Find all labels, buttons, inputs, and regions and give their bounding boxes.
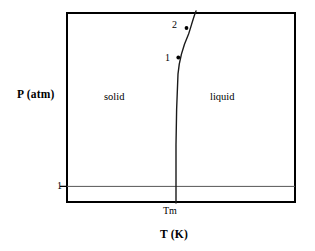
region-label-solid: solid [104, 92, 124, 103]
x-axis-title: T (K) [160, 229, 188, 241]
state-point-1-label: 1 [165, 53, 170, 63]
y-axis-tick-label-1: 1 [57, 181, 62, 191]
plot-frame [66, 12, 296, 203]
region-label-liquid: liquid [210, 92, 235, 103]
x-axis-tick-label-tm: Tm [163, 206, 177, 216]
phase-diagram-figure: P (atm) T (K) solid liquid Tm 1 1 2 [0, 0, 315, 251]
state-point-2-label: 2 [172, 20, 177, 30]
y-axis-title: P (atm) [17, 89, 54, 101]
